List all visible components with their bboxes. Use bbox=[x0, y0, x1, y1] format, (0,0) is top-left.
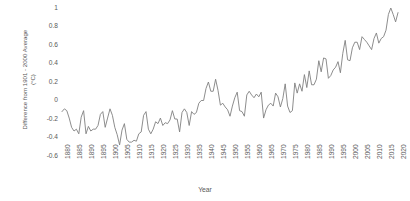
temperature-anomaly-chart: Difference from 1901 - 2000 Average (°C)… bbox=[0, 0, 410, 201]
x-tick-label: 1985 bbox=[317, 144, 324, 159]
x-tick-label: 2020 bbox=[401, 144, 408, 159]
x-tick-label: 1920 bbox=[161, 144, 168, 159]
x-tick-label: 1940 bbox=[209, 144, 216, 159]
x-tick-label: 2010 bbox=[377, 144, 384, 159]
x-tick-label: 1950 bbox=[233, 144, 240, 159]
x-tick-label: 1905 bbox=[125, 144, 132, 159]
x-axis-title: Year bbox=[0, 186, 410, 193]
x-tick-label: 1975 bbox=[293, 144, 300, 159]
x-tick-label: 1895 bbox=[101, 144, 108, 159]
x-tick-label: 1945 bbox=[221, 144, 228, 159]
x-tick-label: 1885 bbox=[77, 144, 84, 159]
x-tick-label: 2015 bbox=[389, 144, 396, 159]
x-tick-label: 1880 bbox=[65, 144, 72, 159]
x-tick-label: 1980 bbox=[305, 144, 312, 159]
x-tick-label: 1930 bbox=[185, 144, 192, 159]
x-tick-label: 2005 bbox=[365, 144, 372, 159]
x-tick-label: 1935 bbox=[197, 144, 204, 159]
x-tick-label: 1990 bbox=[329, 144, 336, 159]
x-tick-label: 1915 bbox=[149, 144, 156, 159]
x-tick-label: 2000 bbox=[353, 144, 360, 159]
x-tick-label: 1890 bbox=[89, 144, 96, 159]
x-tick-label: 1970 bbox=[281, 144, 288, 159]
x-tick-label: 1995 bbox=[341, 144, 348, 159]
x-tick-label: 1965 bbox=[269, 144, 276, 159]
x-tick-label: 1900 bbox=[113, 144, 120, 159]
x-tick-label: 1960 bbox=[257, 144, 264, 159]
x-tick-label: 1910 bbox=[137, 144, 144, 159]
x-tick-label: 1925 bbox=[173, 144, 180, 159]
x-tick-label: 1955 bbox=[245, 144, 252, 159]
x-axis-tick-labels: 1880188518901895190019051910191519201925… bbox=[0, 0, 410, 201]
